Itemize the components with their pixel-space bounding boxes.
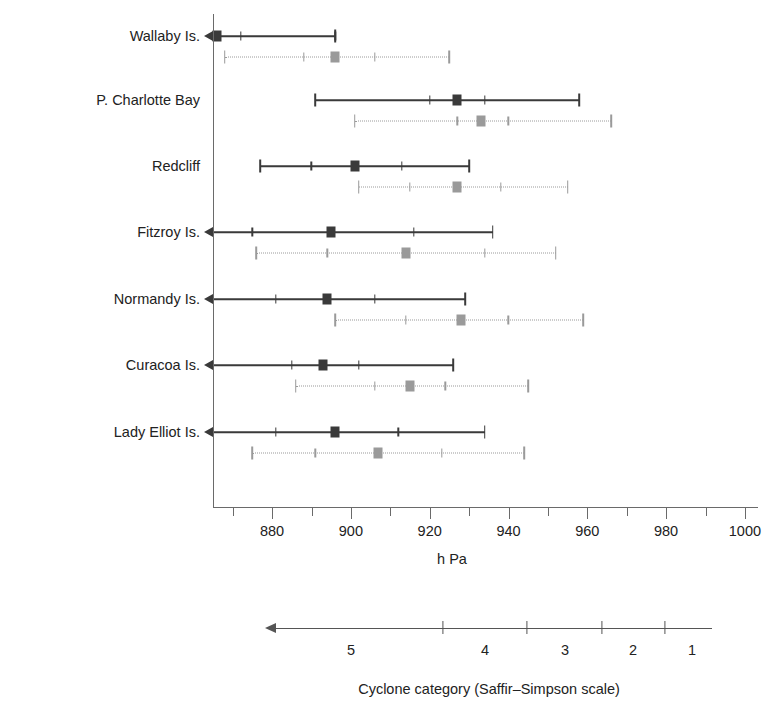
range-bar [213,291,465,307]
y-axis-line [213,14,214,508]
x-axis-tick-label: 880 [260,523,284,539]
range-cap-high [449,51,451,64]
range-bar [355,113,611,129]
x-axis-tick-label: 1000 [729,523,761,539]
range-bar [252,445,524,461]
range-cap-low [315,94,317,107]
quartile-tick-q1 [275,295,276,304]
cyclone-scale-tick [526,621,527,634]
range-bar [225,49,450,65]
range-line [213,431,485,433]
quartile-tick-q1 [409,183,410,192]
median-marker [453,95,462,106]
quartile-tick-q1 [240,32,241,41]
quartile-tick-q1 [405,316,406,325]
category-label: Redcliff [152,158,200,174]
left-arrow-icon [204,227,213,237]
range-bar [315,92,579,108]
median-marker [457,315,466,326]
cyclone-scale-line [274,628,712,629]
range-bar [359,179,568,195]
range-cap-low [252,447,254,460]
median-marker [374,448,383,459]
range-cap-high [484,426,486,439]
x-axis-tick-label: 900 [339,523,363,539]
range-cap-high [567,181,569,194]
range-bar [213,28,335,44]
quartile-tick-q1 [457,117,458,126]
range-cap-high [468,160,470,173]
quartile-tick-q1 [429,96,430,105]
quartile-tick-q1 [291,361,292,370]
range-cap-high [579,94,581,107]
quartile-tick-q3 [401,162,402,171]
x-axis-tick [351,508,352,519]
range-cap-high [453,359,455,372]
x-axis-tick [469,508,470,516]
range-cap-high [523,447,525,460]
category-label: Normandy Is. [114,291,200,307]
quartile-tick-q3 [334,32,335,41]
range-bar [213,224,493,240]
x-axis-tick [390,508,391,516]
category-label: P. Charlotte Bay [96,92,200,108]
left-arrow-icon [204,427,213,437]
range-line [359,187,568,188]
cyclone-category-label: 5 [347,642,355,658]
quartile-tick-q3 [441,449,442,458]
range-cap-high [555,247,557,260]
range-bar [213,357,453,373]
category-label: Fitzroy Is. [137,224,200,240]
quartile-tick-q3 [413,228,414,237]
category-label: Lady Elliot Is. [114,424,200,440]
range-cap-low [358,181,360,194]
quartile-tick-q1 [315,449,316,458]
left-arrow-icon [204,360,213,370]
range-cap-low [256,247,258,260]
range-bar [256,245,555,261]
range-cap-high [610,115,612,128]
quartile-tick-q3 [358,361,359,370]
cyclone-category-label: 4 [481,642,489,658]
median-marker [319,360,328,371]
range-cap-low [259,160,261,173]
quartile-tick-q1 [275,428,276,437]
category-label: Curacoa Is. [126,357,200,373]
range-line [213,35,335,37]
x-axis-tick [666,508,667,519]
x-axis-tick-label: 920 [418,523,442,539]
range-cap-low [354,115,356,128]
quartile-tick-q1 [311,162,312,171]
x-axis-tick [272,508,273,519]
quartile-tick-q1 [374,382,375,391]
x-axis-tick [430,508,431,519]
x-axis-tick [706,508,707,516]
x-axis-tick [745,508,746,519]
range-line [315,99,579,101]
x-axis-tick [312,508,313,516]
median-marker [323,294,332,305]
cyclone-pressure-chart: Wallaby Is.P. Charlotte BayRedcliffFitzr… [0,0,768,725]
x-axis-line [213,507,758,508]
x-axis-tick [548,508,549,516]
cyclone-category-label: 3 [561,642,569,658]
quartile-tick-q1 [252,228,253,237]
median-marker [453,182,462,193]
x-axis-tick-label: 980 [654,523,678,539]
x-axis-title: h Pa [437,551,467,567]
category-label: Wallaby Is. [130,28,200,44]
quartile-tick-q1 [303,53,304,62]
quartile-tick-q3 [484,249,485,258]
range-cap-low [334,314,336,327]
cyclone-category-label: 1 [688,642,696,658]
quartile-tick-q1 [327,249,328,258]
x-axis-tick [233,508,234,516]
range-cap-low [295,380,297,393]
median-marker [331,52,340,63]
quartile-tick-q3 [500,183,501,192]
range-line [213,364,453,366]
quartile-tick-q3 [508,117,509,126]
median-marker [327,227,336,238]
median-marker [402,248,411,259]
median-marker [476,116,485,127]
